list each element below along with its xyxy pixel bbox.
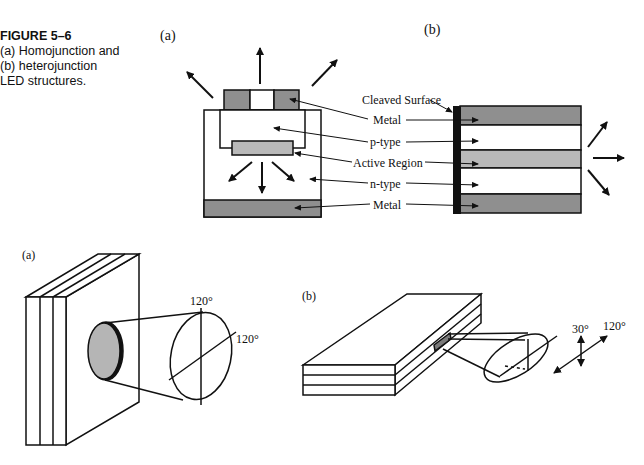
panel-label-a-bottom: (a) (22, 248, 35, 262)
figure-canvas: (a) Cleaved Surface Metal p-type Active (0, 0, 644, 465)
chip-front-face (303, 365, 395, 395)
layer-metal-top (460, 106, 581, 125)
layer-metal-bottom (460, 194, 581, 213)
angle-diagonal-label: 120° (236, 332, 259, 346)
emission-arrow-up-right (312, 60, 337, 86)
beam-hidden-edge (505, 366, 525, 369)
panel-label-b-top: (b) (424, 22, 441, 38)
active-region (232, 141, 293, 155)
label-n-type: n-type (370, 177, 401, 191)
layer-labels: Cleaved Surface Metal p-type Active Regi… (353, 93, 441, 212)
beam-ellipse (476, 325, 555, 392)
angle-diagonal-label-b: 120° (603, 319, 626, 333)
label-cleaved-surface: Cleaved Surface (362, 93, 441, 107)
surface-emitter-3d: (a) 120° 120° (22, 248, 259, 445)
layer-p-type (460, 125, 581, 150)
slab-front-face (26, 297, 66, 445)
angle-axis-diagonal (169, 332, 236, 380)
beam-top-edge (448, 333, 528, 334)
label-metal-top: Metal (373, 113, 402, 127)
emitter-spot (88, 323, 120, 379)
edge-emitter-3d: (b) 30° 120° (302, 289, 626, 395)
panel-label-b-bottom: (b) (302, 289, 316, 303)
panel-label-a-top: (a) (160, 28, 176, 44)
layer-n-type (460, 168, 581, 194)
layer-active-region (460, 150, 581, 168)
edge-emission-down (588, 170, 609, 195)
beam-bottom-edge (443, 349, 500, 377)
homojunction-diagram: (a) (160, 28, 370, 217)
bottom-metal (204, 200, 321, 217)
contact-window (250, 90, 274, 110)
emission-arrow-up-left (187, 72, 213, 98)
heterojunction-diagram: (b) (406, 22, 624, 214)
label-p-type: p-type (370, 135, 401, 149)
top-metal-contact-left (224, 90, 250, 110)
edge-emission-up (588, 122, 607, 147)
cleaved-surface (453, 106, 461, 214)
label-metal-bottom: Metal (373, 198, 402, 212)
angle-vertical-label-b: 30° (572, 322, 589, 336)
angle-vertical-label: 120° (190, 294, 213, 308)
label-active-region: Active Region (353, 156, 423, 170)
